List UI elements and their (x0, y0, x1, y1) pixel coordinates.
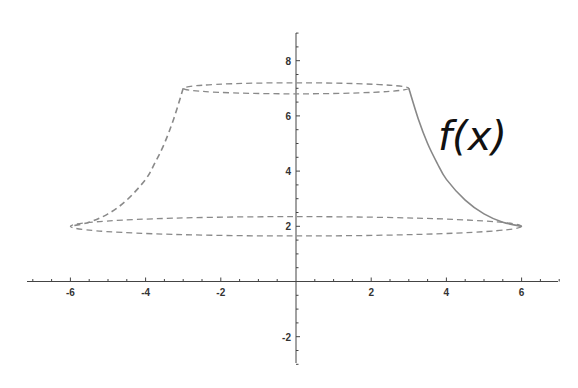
x-tick-label: 6 (519, 287, 525, 298)
x-tick-label: -4 (141, 287, 150, 298)
axes: -6-4-2246-22468 (27, 33, 559, 364)
y-tick-label: 6 (285, 111, 291, 122)
x-tick-label: -6 (66, 287, 75, 298)
x-tick-label: 4 (444, 287, 450, 298)
function-plot: -6-4-2246-22468 f(x) (0, 0, 578, 388)
y-tick-label: 2 (285, 221, 291, 232)
x-tick-label: -2 (216, 287, 225, 298)
y-tick-label: -2 (282, 332, 291, 343)
mirrored-profile-curve (70, 88, 183, 226)
y-tick-label: 4 (285, 166, 291, 177)
x-tick-label: 2 (368, 287, 374, 298)
y-tick-label: 8 (285, 56, 291, 67)
function-label: f(x) (438, 113, 507, 159)
